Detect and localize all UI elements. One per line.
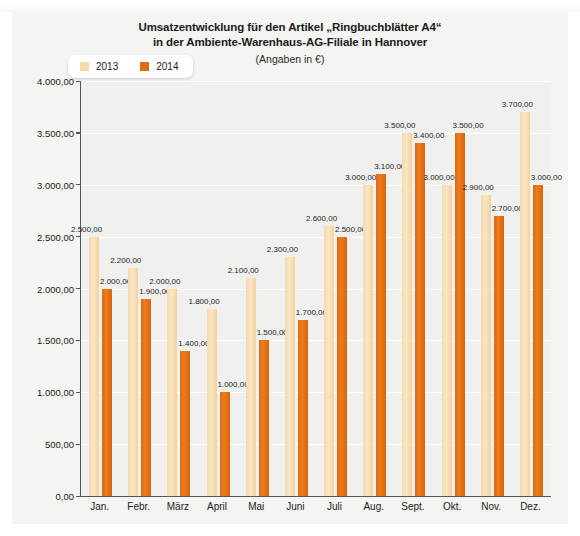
- x-axis-label-Febr: Febr.: [119, 501, 158, 512]
- bar-2013-April[interactable]: [207, 309, 217, 496]
- bar-value-label: 3.500,00: [384, 121, 415, 131]
- x-axis-label-Dez: Dez.: [511, 501, 550, 512]
- x-axis-label-Jan: Jan.: [80, 501, 119, 512]
- scan-artifact: [0, 0, 580, 12]
- bar-2014-März[interactable]: [180, 351, 190, 496]
- x-axis-label-Okt: Okt.: [433, 501, 472, 512]
- y-axis-labels: 0,00500,001.000,001.500,002.000,002.500,…: [12, 81, 74, 496]
- bar-2013-Febr[interactable]: [128, 268, 138, 496]
- legend-swatch-icon: [80, 62, 89, 71]
- x-axis-label-Aug: Aug.: [354, 501, 393, 512]
- chart-legend: 20132014: [68, 55, 193, 78]
- bar-2014-Dez[interactable]: [533, 185, 543, 496]
- bar-2013-Jan[interactable]: [89, 237, 99, 496]
- y-axis-tick-label: 500,00: [12, 439, 74, 450]
- legend-swatch-icon: [140, 62, 149, 71]
- bar-value-label: 2.200,00: [110, 256, 141, 266]
- bar-group: 2.600,002.500,00: [316, 81, 355, 496]
- bar-value-label: 2.600,00: [306, 214, 337, 224]
- bar-2014-April[interactable]: [220, 392, 230, 496]
- y-axis-tick-label: 3.000,00: [12, 179, 74, 190]
- legend-item-2014[interactable]: 2014: [140, 61, 178, 72]
- bar-value-label: 2.000,00: [149, 277, 180, 287]
- bar-value-label: 1.800,00: [189, 297, 220, 307]
- y-axis-tick-label: 1.500,00: [12, 335, 74, 346]
- bar-2013-Okt[interactable]: [442, 185, 452, 496]
- bar-group: 3.000,003.500,00: [434, 81, 473, 496]
- bar-value-label: 2.500,00: [71, 225, 102, 235]
- bar-2014-Nov[interactable]: [494, 216, 504, 496]
- bar-group: 2.500,002.000,00: [81, 81, 120, 496]
- x-axis-label-Nov: Nov.: [472, 501, 511, 512]
- y-axis-tick-label: 4.000,00: [12, 76, 74, 87]
- y-axis-tick-label: 0,00: [12, 491, 74, 502]
- legend-label: 2013: [96, 61, 118, 72]
- legend-label: 2014: [156, 61, 178, 72]
- x-axis-label-Juli: Juli: [315, 501, 354, 512]
- bar-value-label: 2.100,00: [228, 266, 259, 276]
- bar-value-label: 3.000,00: [531, 173, 562, 183]
- bar-2013-Nov[interactable]: [481, 195, 491, 496]
- bar-2013-März[interactable]: [167, 289, 177, 497]
- bar-2013-Juni[interactable]: [285, 257, 295, 496]
- bar-group: 2.100,001.500,00: [238, 81, 277, 496]
- bar-2014-Sept[interactable]: [415, 143, 425, 496]
- legend-item-2013[interactable]: 2013: [80, 61, 118, 72]
- bar-2014-Febr[interactable]: [141, 299, 151, 496]
- bar-value-label: 2.900,00: [463, 183, 494, 193]
- y-axis-tick-label: 2.000,00: [12, 283, 74, 294]
- bar-group: 3.700,003.000,00: [512, 81, 551, 496]
- x-axis-labels: Jan.Febr.MärzAprilMaiJuniJuliAug.Sept.Ok…: [80, 501, 550, 523]
- bar-2013-Dez[interactable]: [520, 112, 530, 496]
- chart-card: Umsatzentwicklung für den Artikel „Ringb…: [12, 12, 568, 524]
- bar-2013-Mai[interactable]: [246, 278, 256, 496]
- bar-group: 3.500,003.400,00: [394, 81, 433, 496]
- plot-area: 2.500,002.000,002.200,001.900,002.000,00…: [80, 81, 551, 497]
- x-axis-label-Mai: Mai: [237, 501, 276, 512]
- bar-group: 2.300,001.700,00: [277, 81, 316, 496]
- bar-2013-Juli[interactable]: [324, 226, 334, 496]
- chart-title-line-2: in der Ambiente-Warenhaus-AG-Filiale in …: [12, 35, 568, 50]
- bar-group: 3.000,003.100,00: [355, 81, 394, 496]
- x-axis-label-April: April: [198, 501, 237, 512]
- bar-group: 2.000,001.400,00: [159, 81, 198, 496]
- y-axis-tick-label: 3.500,00: [12, 127, 74, 138]
- y-axis-tick-label: 2.500,00: [12, 231, 74, 242]
- bar-value-label: 3.000,00: [345, 173, 376, 183]
- bar-2014-Juni[interactable]: [298, 320, 308, 496]
- bar-group: 2.900,002.700,00: [473, 81, 512, 496]
- x-axis-label-Juni: Juni: [276, 501, 315, 512]
- bar-value-label: 3.000,00: [424, 173, 455, 183]
- bar-group: 1.800,001.000,00: [199, 81, 238, 496]
- x-axis-label-Sept: Sept.: [393, 501, 432, 512]
- bar-2014-Jan[interactable]: [102, 289, 112, 497]
- y-axis-tick-label: 1.000,00: [12, 387, 74, 398]
- chart-title-line-1: Umsatzentwicklung für den Artikel „Ringb…: [12, 20, 568, 35]
- bar-2014-Mai[interactable]: [259, 340, 269, 496]
- bar-2014-Juli[interactable]: [337, 237, 347, 496]
- bar-value-label: 3.700,00: [502, 100, 533, 110]
- bar-2013-Aug[interactable]: [363, 185, 373, 496]
- x-axis-label-März: März: [158, 501, 197, 512]
- bar-2014-Aug[interactable]: [376, 174, 386, 496]
- bar-group: 2.200,001.900,00: [120, 81, 159, 496]
- bar-2013-Sept[interactable]: [402, 133, 412, 496]
- bar-value-label: 2.300,00: [267, 245, 298, 255]
